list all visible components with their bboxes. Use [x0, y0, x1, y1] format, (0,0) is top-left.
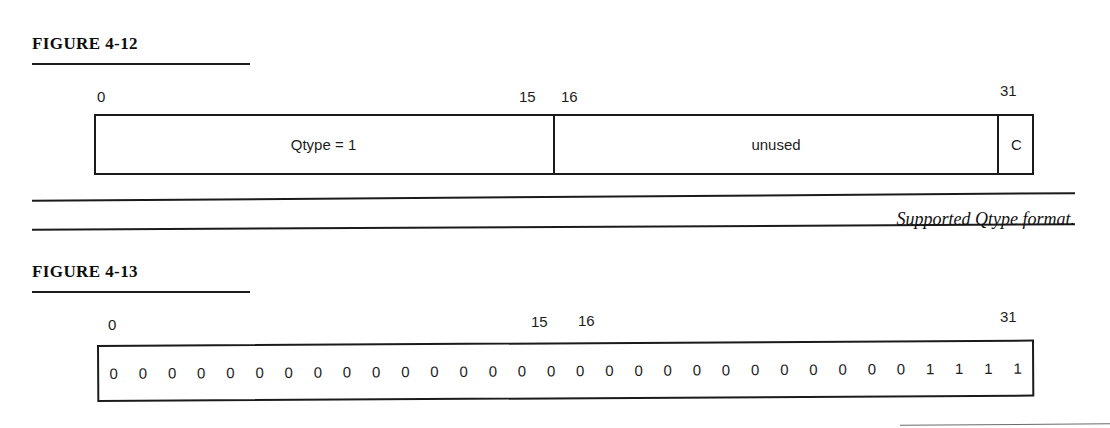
figure-412-heading-rule	[32, 63, 250, 65]
page-bottom-rule-fragment	[900, 423, 1110, 426]
figure-413-bit-cell: 0	[187, 364, 216, 381]
figure-413-bit-cell: 0	[595, 362, 624, 379]
figure-413-bit-cell: 0	[362, 363, 391, 380]
figure-412-bit-label-end: 31	[1000, 82, 1017, 99]
figure-413-bit-cell: 0	[741, 361, 770, 378]
figure-413-bit-row: 00000000000000000000000000001111	[99, 340, 1032, 402]
figure-412-field-qtype: Qtype = 1	[94, 114, 553, 175]
figure-413-bit-cell: 0	[303, 364, 332, 381]
figure-413-bit-cell: 0	[536, 362, 565, 379]
figure-413-bit-cell: 1	[974, 360, 1003, 377]
figure-413-bit-cell: 0	[245, 364, 274, 381]
figure-413-bit-cell: 0	[799, 361, 828, 378]
figure-413-bit-label-mid-left: 15	[531, 313, 548, 330]
figure-412-bit-label-start: 0	[97, 88, 105, 105]
figure-413-bit-cell: 0	[420, 363, 449, 380]
figure-412-separator-rule-top	[32, 192, 1075, 201]
figure-413-heading: FIGURE 4-13	[32, 262, 138, 282]
figure-413-bit-cell: 0	[332, 363, 361, 380]
figure-413-bit-cell: 0	[566, 362, 595, 379]
figure-413-bit-cell: 0	[478, 363, 507, 380]
figure-413-bit-label-mid-right: 16	[578, 312, 595, 329]
figure-413-bit-cell: 0	[157, 364, 186, 381]
figure-413-bit-cell: 0	[449, 363, 478, 380]
figure-413-bit-cell: 0	[711, 361, 740, 378]
figure-413-bit-cell: 0	[828, 361, 857, 378]
figure-413-bit-cell: 0	[682, 361, 711, 378]
figure-412-bit-label-mid-right: 16	[561, 88, 578, 105]
figure-413-bit-cell: 0	[216, 364, 245, 381]
figure-413-bit-cell: 1	[1003, 360, 1032, 377]
figure-413-bit-cell: 0	[128, 365, 157, 382]
figure-413-bit-cell: 0	[770, 361, 799, 378]
figure-413-bit-cell: 0	[507, 362, 536, 379]
figure-413-bit-label-start: 0	[108, 316, 116, 333]
figure-412-field-unused: unused	[555, 114, 997, 175]
figure-413-bit-cell: 0	[274, 364, 303, 381]
figure-413-bit-cell: 0	[653, 362, 682, 379]
figure-413-bit-cell: 1	[915, 360, 944, 377]
figure-413-bit-cell: 0	[857, 360, 886, 377]
figure-413-bit-cell: 0	[391, 363, 420, 380]
figure-413-bit-cell: 1	[945, 360, 974, 377]
figure-412-caption: Supported Qtype format.	[775, 209, 1075, 230]
figure-413-heading-rule	[32, 291, 250, 293]
figure-412-bit-label-mid-left: 15	[519, 88, 536, 105]
figure-412-field-c: C	[999, 114, 1034, 175]
figure-412-heading: FIGURE 4-12	[32, 34, 138, 54]
figure-413-bit-cell: 0	[886, 360, 915, 377]
figure-413-bit-cell: 0	[624, 362, 653, 379]
figure-413-bit-label-end: 31	[1000, 308, 1017, 325]
figure-413-bit-cell: 0	[99, 365, 128, 382]
